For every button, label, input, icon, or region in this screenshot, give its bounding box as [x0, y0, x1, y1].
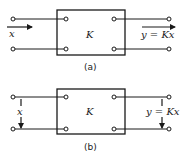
terminal-icon	[64, 127, 68, 131]
terminal-icon	[167, 47, 171, 51]
diagram-a: x K y = Kx (a)	[7, 10, 175, 72]
caption-a: (a)	[84, 62, 97, 72]
terminal-icon	[112, 95, 116, 99]
terminal-icon	[11, 17, 15, 21]
output-label-b: y = Kx	[145, 106, 180, 117]
terminal-icon	[112, 17, 116, 21]
block-label-a: K	[85, 29, 94, 40]
input-label-b: x	[17, 106, 23, 117]
terminal-icon	[11, 95, 15, 99]
terminal-icon	[112, 47, 116, 51]
terminal-icon	[167, 127, 171, 131]
terminal-icon	[167, 95, 171, 99]
output-label-a: y = Kx	[140, 29, 175, 40]
terminal-icon	[64, 17, 68, 21]
terminal-icon	[64, 47, 68, 51]
two-port-diagrams: x K y = Kx (a) x K y = Kx (b)	[0, 0, 188, 159]
block-label-b: K	[85, 106, 94, 117]
caption-b: (b)	[84, 142, 97, 152]
terminal-icon	[11, 47, 15, 51]
diagram-b: x K y = Kx (b)	[11, 89, 180, 152]
terminal-icon	[64, 95, 68, 99]
terminal-icon	[11, 127, 15, 131]
input-label-a: x	[9, 28, 15, 39]
terminal-icon	[112, 127, 116, 131]
terminal-icon	[167, 17, 171, 21]
